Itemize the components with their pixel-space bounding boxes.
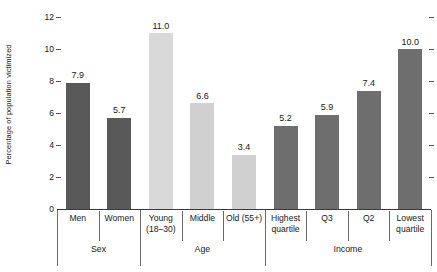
- y-axis-tick-label: 6: [18, 108, 54, 118]
- y-axis-title-text: Percentage of population victimized: [4, 44, 13, 164]
- category-label-line2: quartile: [389, 224, 431, 235]
- category-label-line2: (18–30): [140, 224, 182, 235]
- category-label-line1: Old (55+): [223, 213, 265, 224]
- category-separator-line: [348, 211, 349, 241]
- bar: 5.9: [315, 115, 339, 209]
- group-label: Age: [140, 242, 265, 260]
- category-separator-line: [389, 211, 390, 241]
- bar-chart: Percentage of population victimized 0246…: [0, 0, 437, 272]
- category-label-line1: Young: [140, 213, 182, 224]
- category-label-line1: Lowest: [389, 213, 431, 224]
- category-label-line1: Middle: [182, 213, 224, 224]
- y-axis-tick-label: 4: [18, 140, 54, 150]
- category-separator-line: [99, 211, 100, 241]
- category-label-line2: quartile: [265, 224, 307, 235]
- bar: 6.6: [190, 103, 214, 209]
- bar: 7.9: [66, 83, 90, 209]
- bar-value-label: 6.6: [179, 91, 225, 102]
- bar: 11.0: [149, 33, 173, 209]
- category-label-line1: Highest: [265, 213, 307, 224]
- y-axis-tick-label: 0: [18, 204, 54, 214]
- group-label-row: SexAgeIncome: [57, 242, 431, 266]
- bar: 5.2: [274, 126, 298, 209]
- category-label-line1: Q3: [306, 213, 348, 224]
- y-axis-title: Percentage of population victimized: [0, 0, 16, 209]
- bar-value-label: 11.0: [138, 21, 184, 32]
- category-separator-line: [182, 211, 183, 241]
- y-axis-tick-label: 12: [18, 12, 54, 22]
- bar-value-label: 7.9: [55, 70, 101, 81]
- category-label-line1: Women: [99, 213, 141, 224]
- plot-area: 7.95.711.06.63.45.25.97.410.0: [57, 0, 431, 209]
- bar-value-label: 10.0: [387, 37, 433, 48]
- category-label-line1: Men: [57, 213, 99, 224]
- group-separator-line: [431, 210, 432, 266]
- bar: 10.0: [398, 49, 422, 209]
- group-separator-line: [140, 210, 141, 266]
- bar: 3.4: [232, 155, 256, 209]
- bar-value-label: 3.4: [221, 142, 267, 153]
- category-label: Old (55+): [223, 210, 265, 242]
- bar-value-label: 5.9: [304, 102, 350, 113]
- bar: 7.4: [357, 91, 381, 209]
- category-separator-line: [223, 211, 224, 241]
- category-label-row: MenWomenYoung(18–30)MiddleOld (55+)Highe…: [57, 210, 431, 242]
- category-label: Q3: [306, 210, 348, 242]
- y-axis-tick-label: 10: [18, 44, 54, 54]
- y-axis-tick-label: 8: [18, 76, 54, 86]
- category-label-line1: Q2: [348, 213, 390, 224]
- category-label: Middle: [182, 210, 224, 242]
- bar-value-label: 7.4: [346, 78, 392, 89]
- category-label: Lowestquartile: [389, 210, 431, 242]
- category-label: Young(18–30): [140, 210, 182, 242]
- category-label: Q2: [348, 210, 390, 242]
- bar-value-label: 5.2: [263, 113, 309, 124]
- y-axis-tick-label: 2: [18, 172, 54, 182]
- category-separator-line: [306, 211, 307, 241]
- group-separator-line: [265, 210, 266, 266]
- category-label: Men: [57, 210, 99, 242]
- bar-value-label: 5.7: [96, 105, 142, 116]
- group-label: Sex: [57, 242, 140, 260]
- group-label: Income: [265, 242, 431, 260]
- category-label: Highestquartile: [265, 210, 307, 242]
- bar: 5.7: [107, 118, 131, 209]
- category-label: Women: [99, 210, 141, 242]
- group-separator-line: [57, 210, 58, 266]
